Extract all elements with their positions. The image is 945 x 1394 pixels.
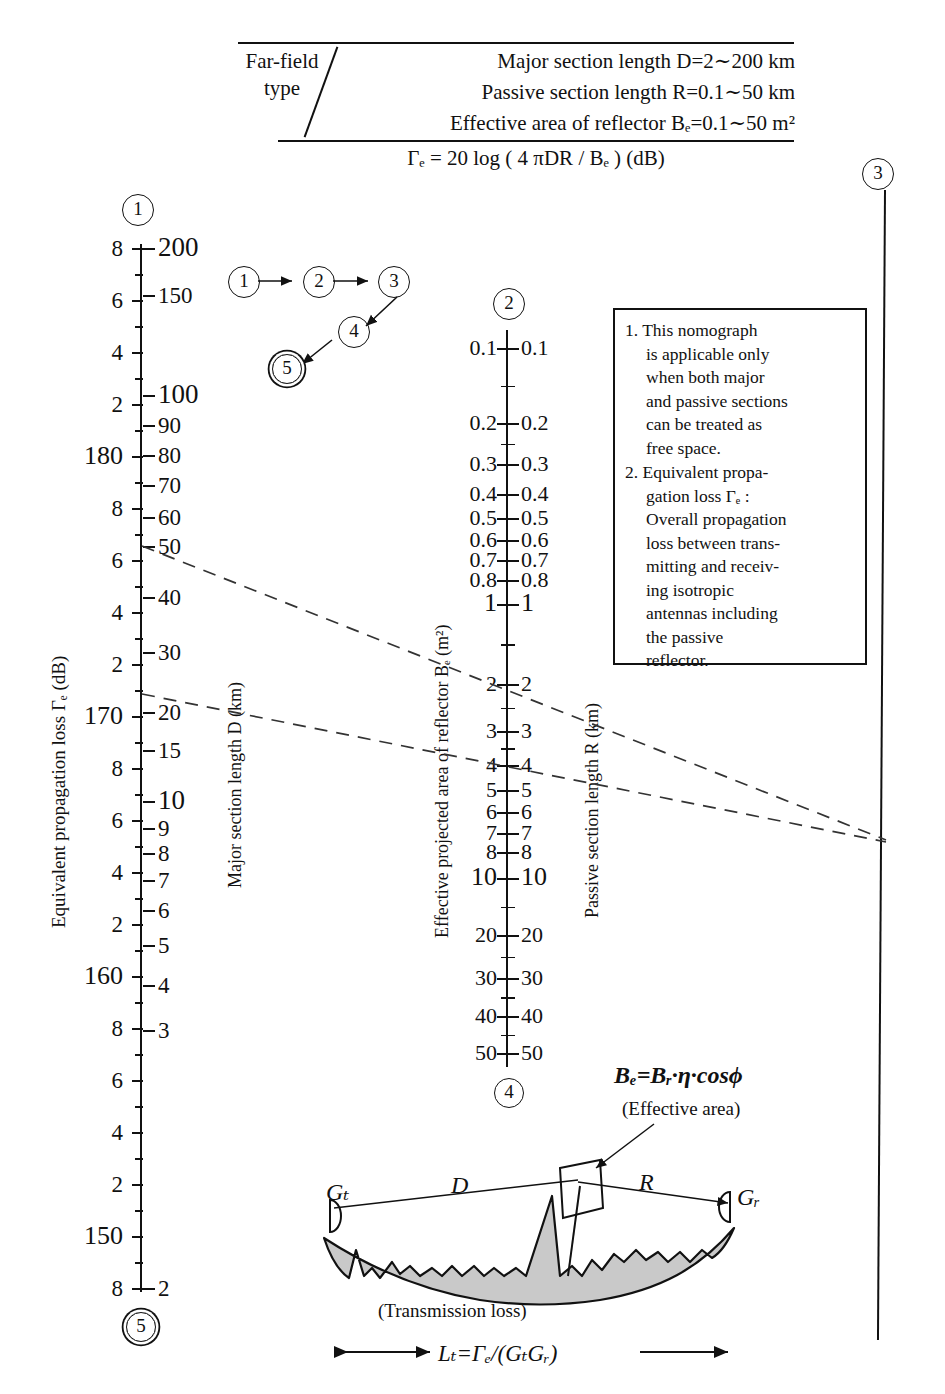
terrain-schematic <box>0 0 945 1394</box>
